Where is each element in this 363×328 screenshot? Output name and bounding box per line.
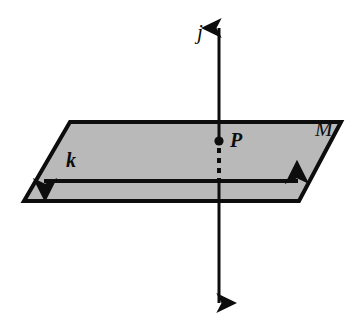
- figure-canvas: [0, 0, 363, 328]
- point-p-dot: [214, 136, 223, 145]
- plane-m-label: M: [315, 119, 333, 140]
- point-p-label: P: [230, 130, 242, 150]
- line-j-label: j: [197, 22, 203, 43]
- geometry-figure: j P M k: [0, 0, 363, 328]
- line-k-label: k: [66, 150, 76, 170]
